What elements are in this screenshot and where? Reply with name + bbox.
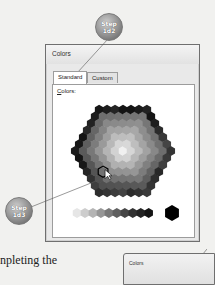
colors-dialog-secondary: Colors bbox=[123, 253, 215, 285]
standard-colors-panel: Colors: bbox=[52, 84, 195, 238]
grayscale-swatch[interactable] bbox=[129, 208, 137, 218]
grayscale-swatch[interactable] bbox=[89, 208, 97, 218]
grayscale-swatch[interactable] bbox=[121, 208, 129, 218]
black-swatch-large[interactable] bbox=[165, 205, 179, 221]
tab-custom[interactable]: Custom bbox=[87, 72, 118, 83]
dialog-titlebar[interactable]: Colors bbox=[46, 45, 199, 64]
colors-dialog: Colors Standard Custom Colors: bbox=[45, 44, 200, 242]
grayscale-swatch[interactable] bbox=[113, 208, 121, 218]
grayscale-swatch[interactable] bbox=[73, 208, 81, 218]
grayscale-swatch[interactable] bbox=[137, 208, 145, 218]
callout-step-number: 1d2 bbox=[103, 27, 116, 34]
step-callout-1d2: Step 1d2 bbox=[95, 13, 123, 41]
step-callout-1d3: Step 1d3 bbox=[5, 197, 33, 225]
callout-step-number: 1d3 bbox=[13, 211, 26, 218]
color-hexagon-grid[interactable] bbox=[53, 85, 194, 237]
dialog-title: Colors bbox=[129, 260, 143, 266]
grayscale-swatch[interactable] bbox=[97, 208, 105, 218]
grayscale-swatch[interactable] bbox=[81, 208, 89, 218]
body-text: npleting the bbox=[0, 253, 57, 268]
callout-step-label: Step bbox=[101, 20, 117, 27]
grayscale-swatch[interactable] bbox=[105, 208, 113, 218]
dialog-title: Colors bbox=[52, 50, 71, 57]
callout-step-label: Step bbox=[11, 204, 27, 211]
tabstrip: Standard Custom bbox=[50, 72, 195, 84]
tab-standard[interactable]: Standard bbox=[53, 71, 87, 84]
grayscale-swatch[interactable] bbox=[144, 208, 152, 218]
